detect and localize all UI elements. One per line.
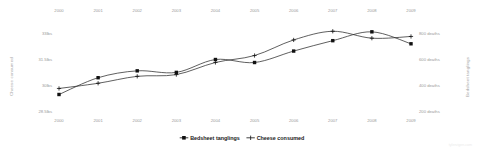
- x-tick-label-top: 2004: [211, 8, 221, 13]
- x-tick-label-bottom: 2000: [54, 118, 64, 123]
- x-tick-label-bottom: 2001: [93, 118, 103, 123]
- x-tick-label-bottom: 2005: [250, 118, 260, 123]
- x-tick-label-top: 2002: [133, 8, 143, 13]
- x-tick-label-top: 2005: [250, 8, 260, 13]
- right-axis-title: Bedsheet tanglings: [465, 56, 470, 97]
- y-tick-label-left: 31.5lbs: [38, 57, 52, 62]
- data-point-square: [57, 93, 60, 96]
- y-tick-label-left: 33lbs: [42, 31, 52, 36]
- chart-background: [0, 0, 478, 152]
- data-point-square: [331, 39, 334, 42]
- data-point-square: [370, 30, 373, 33]
- data-point-square: [253, 61, 256, 64]
- spurious-correlation-chart: 2000200120022003200420052006200720082009…: [0, 0, 478, 152]
- watermark-text: tylervigen.com: [449, 143, 472, 147]
- x-tick-label-top: 2009: [406, 8, 416, 13]
- y-tick-label-right: 600 deaths: [419, 57, 440, 62]
- legend-label: Cheese consumed: [257, 135, 305, 141]
- x-tick-label-bottom: 2008: [367, 118, 377, 123]
- x-tick-label-top: 2008: [367, 8, 377, 13]
- data-point-square: [292, 49, 295, 52]
- x-tick-label-top: 2001: [93, 8, 103, 13]
- y-tick-label-left: 30lbs: [42, 83, 52, 88]
- x-tick-label-top: 2006: [289, 8, 299, 13]
- y-tick-label-right: 800 deaths: [419, 31, 440, 36]
- x-tick-label-top: 2000: [54, 8, 64, 13]
- x-tick-label-top: 2003: [172, 8, 182, 13]
- x-tick-label-bottom: 2009: [406, 118, 416, 123]
- x-tick-label-top: 2007: [328, 8, 338, 13]
- chart-canvas: 2000200120022003200420052006200720082009…: [0, 0, 478, 152]
- x-tick-label-bottom: 2007: [328, 118, 338, 123]
- x-tick-label-bottom: 2002: [133, 118, 143, 123]
- y-tick-label-right: 400 deaths: [419, 83, 440, 88]
- y-tick-label-right: 200 deaths: [419, 109, 440, 114]
- y-tick-label-left: 28.5lbs: [38, 109, 52, 114]
- x-tick-label-bottom: 2004: [211, 118, 221, 123]
- data-point-square: [96, 76, 99, 79]
- legend-label: Bedsheet tanglings: [190, 135, 240, 141]
- x-tick-label-bottom: 2003: [172, 118, 182, 123]
- left-axis-title: Cheese consumed: [9, 57, 14, 96]
- data-point-square: [136, 69, 139, 72]
- data-point-square: [409, 42, 412, 45]
- x-tick-label-bottom: 2006: [289, 118, 299, 123]
